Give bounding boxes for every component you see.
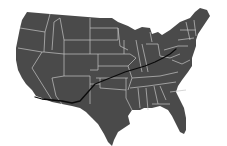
us-map bbox=[0, 0, 227, 146]
